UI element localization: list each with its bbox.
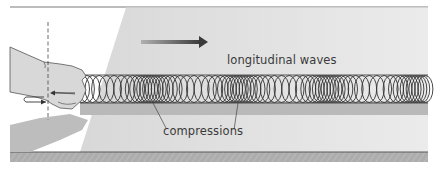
- compressions-label: compressions: [163, 124, 243, 138]
- arm-shadow: [10, 114, 88, 152]
- longitudinal-wave-diagram: longitudinal waves compressions: [0, 0, 438, 171]
- spring-shadow-band: [80, 102, 428, 115]
- longitudinal-waves-label: longitudinal waves: [227, 53, 337, 67]
- floor-band: [10, 152, 428, 162]
